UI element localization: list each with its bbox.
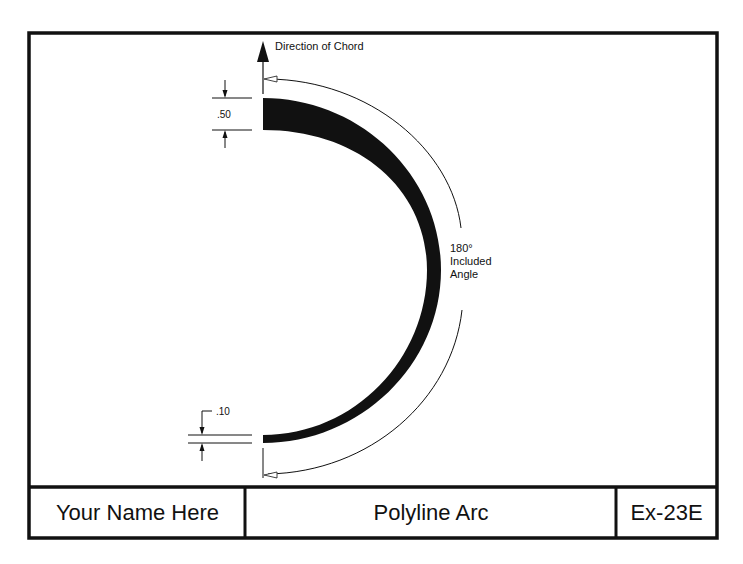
sheet-border [29, 33, 717, 538]
polyline-arc-shape [263, 98, 441, 443]
title-block-title: Polyline Arc [247, 489, 615, 536]
title-block-name: Your Name Here [31, 489, 244, 536]
angle-dimension-arc-lower [268, 310, 462, 474]
polyline-arc-drawing: Direction of Chord 180° Included Angle .… [0, 0, 743, 564]
end-width-label: .10 [216, 406, 230, 417]
start-width-label: .50 [217, 109, 231, 120]
direction-of-chord-arrow [257, 41, 269, 94]
angle-label-line2: Included [450, 255, 492, 267]
angle-arrowhead-top [264, 76, 277, 82]
title-block-exercise: Ex-23E [618, 489, 715, 536]
angle-label-line3: Angle [450, 268, 478, 280]
angle-arrowhead-bottom [264, 472, 277, 478]
angle-label-line1: 180° [450, 242, 473, 254]
end-width-dimension [188, 411, 252, 461]
direction-of-chord-label: Direction of Chord [275, 40, 364, 52]
